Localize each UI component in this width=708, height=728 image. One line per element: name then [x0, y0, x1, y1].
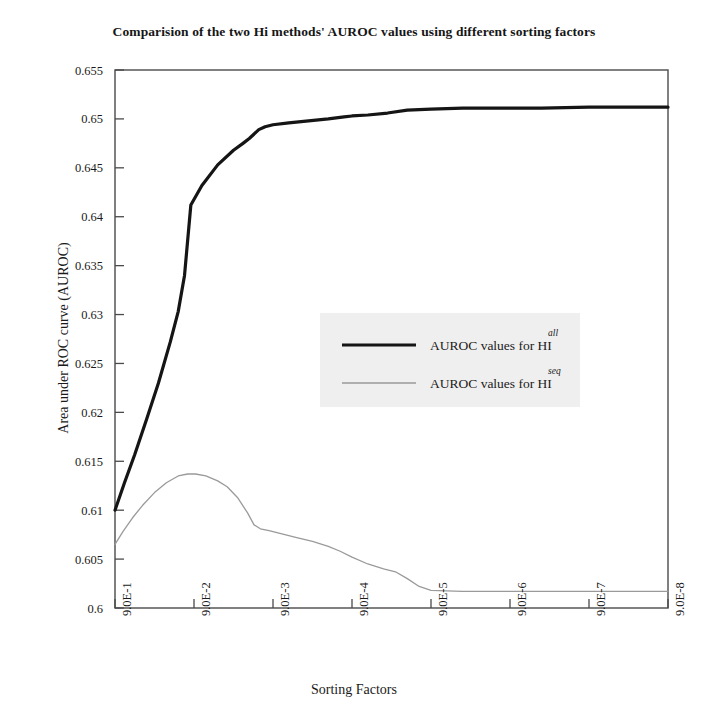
plot-canvas: 0.60.6050.610.6150.620.6250.630.6350.640… [0, 0, 708, 728]
y-tick-label: 0.645 [75, 161, 103, 175]
y-tick-label: 0.635 [75, 259, 103, 273]
y-tick-label: 0.65 [81, 112, 103, 126]
y-tick-label: 0.61 [81, 504, 103, 518]
y-axis-ticks: 0.60.6050.610.6150.620.6250.630.6350.640… [75, 64, 124, 616]
x-tick-label: 9.0E-8 [673, 582, 688, 616]
legend-background [320, 313, 580, 407]
x-tick-label: 9.0E-3 [278, 582, 293, 616]
legend-label-seq: AUROC values for HI [430, 376, 552, 391]
y-axis-title: Area under ROC curve (AUROC) [56, 188, 72, 488]
y-tick-label: 0.6 [87, 602, 103, 616]
x-tick-label: 9.0E-2 [199, 582, 214, 616]
chart-legend: AUROC values for HIallAUROC values for H… [320, 313, 580, 407]
legend-superscript-seq: seq [548, 366, 561, 376]
y-tick-label: 0.64 [81, 210, 104, 224]
chart-figure: Comparision of the two Hi methods' AUROC… [0, 0, 708, 728]
x-tick-label: 9.0E-7 [594, 582, 609, 616]
x-tick-label: 9.0E-5 [436, 582, 451, 616]
series-line-all [115, 107, 668, 510]
x-axis-ticks [115, 599, 668, 608]
y-tick-label: 0.605 [75, 553, 103, 567]
series-line-seq [115, 474, 668, 591]
x-tick-label: 9.0E-6 [515, 582, 530, 616]
y-tick-label: 0.62 [81, 406, 103, 420]
y-tick-label: 0.63 [81, 308, 103, 322]
x-axis-title: Sorting Factors [0, 682, 708, 698]
x-tick-label: 9.0E-1 [120, 582, 135, 616]
x-tick-label: 9.0E-4 [357, 582, 372, 616]
y-tick-label: 0.655 [75, 64, 103, 78]
legend-label-all: AUROC values for HI [430, 338, 552, 353]
y-tick-label: 0.615 [75, 455, 103, 469]
legend-superscript-all: all [548, 328, 558, 338]
y-tick-label: 0.625 [75, 357, 103, 371]
